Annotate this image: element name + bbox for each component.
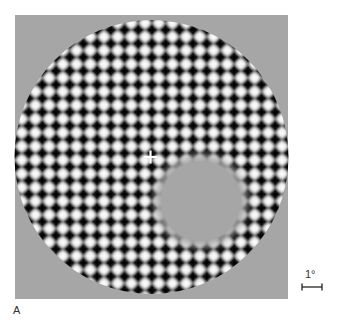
scale-bar-label: 1° — [305, 268, 316, 280]
stimulus-figure — [0, 0, 339, 327]
panel-label: A — [13, 304, 20, 316]
scale-bar-icon — [302, 284, 322, 291]
